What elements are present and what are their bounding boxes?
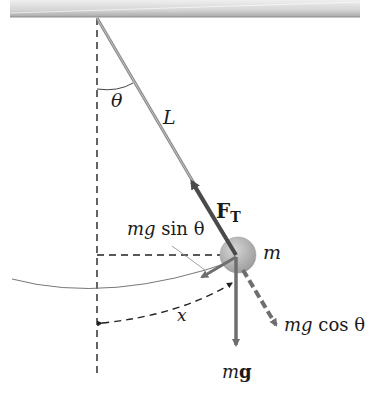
tangential-sin: sin θ — [161, 218, 204, 239]
normal-component-label: mg cos θ — [284, 316, 365, 334]
tangential-mg: mg — [127, 218, 156, 239]
pendulum-bob — [220, 237, 256, 273]
weight-m: m — [222, 361, 239, 382]
normal-cos: cos θ — [318, 314, 365, 335]
swing-arc — [12, 260, 236, 289]
displacement-arc — [102, 283, 232, 323]
weight-label: mg — [222, 363, 252, 381]
normal-mg: mg — [284, 314, 313, 335]
pendulum-diagram — [0, 0, 378, 398]
displacement-label: x — [177, 307, 187, 324]
ceiling — [10, 0, 360, 17]
length-label: L — [163, 108, 176, 127]
tangential-force-label: mg sin θ — [127, 220, 204, 238]
tension-label-main: F — [216, 199, 230, 223]
tension-label: FT — [216, 201, 241, 224]
theta-label: θ — [111, 91, 122, 110]
leader-line — [172, 246, 205, 270]
tension-label-sub: T — [230, 209, 240, 225]
weight-g: g — [239, 361, 252, 382]
normal-component-vector — [243, 270, 276, 325]
mass-label: m — [263, 243, 281, 262]
